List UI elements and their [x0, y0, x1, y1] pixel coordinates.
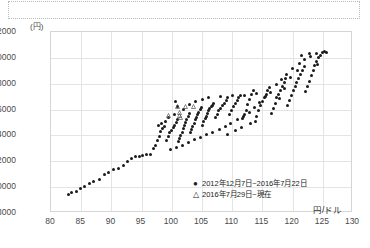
data-point-circle [285, 73, 288, 76]
data-point-circle [184, 121, 187, 124]
data-point-circle [226, 96, 229, 99]
gridline-vertical [323, 32, 324, 211]
data-point-circle [306, 85, 309, 88]
legend-entry: △ 2016年7月29日~現在 [193, 189, 307, 200]
data-point-circle [316, 63, 319, 66]
legend-marker-circle-icon: ● [193, 178, 202, 189]
data-point-circle [310, 74, 313, 77]
data-point-circle [83, 185, 86, 188]
data-point-circle [217, 109, 220, 112]
data-point-circle [264, 95, 267, 98]
data-point-circle [173, 124, 176, 127]
data-point-circle [206, 112, 209, 115]
data-point-circle [236, 99, 239, 102]
data-point-circle [187, 115, 190, 118]
data-point-circle [249, 122, 252, 125]
data-point-circle [325, 51, 328, 54]
data-point-circle [163, 125, 166, 128]
data-point-triangle [178, 106, 183, 111]
data-point-circle [165, 139, 168, 142]
data-point-circle [107, 171, 110, 174]
gridline-vertical [142, 32, 143, 211]
data-point-circle [228, 113, 231, 116]
data-point-circle [201, 124, 204, 127]
data-point-circle [286, 104, 289, 107]
data-point-circle [167, 135, 170, 138]
data-point-circle [112, 168, 115, 171]
data-point-circle [211, 131, 214, 134]
data-point-circle [201, 98, 204, 101]
data-point-circle [202, 120, 205, 123]
data-point-circle [156, 139, 159, 142]
data-point-circle [225, 99, 228, 102]
data-point-circle [193, 138, 196, 141]
data-point-circle [234, 102, 237, 105]
data-point-circle [197, 111, 200, 114]
data-point-circle [252, 89, 255, 92]
data-point-circle [181, 131, 184, 134]
gridline-vertical [172, 32, 173, 211]
chart-legend: ● 2012年12月7日~2016年7月22日 △ 2016年7月29日~現在 [193, 178, 307, 200]
data-point-circle [205, 115, 208, 118]
data-point-circle [98, 178, 101, 181]
data-point-circle [219, 95, 222, 98]
data-point-circle [284, 77, 287, 80]
data-point-circle [288, 99, 291, 102]
x-axis-tick-label: 130 [332, 217, 370, 226]
data-point-circle [187, 141, 190, 144]
data-point-circle [270, 112, 273, 115]
data-point-circle [283, 81, 286, 84]
data-point-circle [299, 73, 302, 76]
y-axis-unit-label: (円) [30, 20, 43, 31]
data-point-circle [292, 89, 295, 92]
data-point-circle [296, 69, 299, 72]
data-point-circle [194, 100, 197, 103]
data-point-circle [92, 180, 95, 183]
data-point-circle [226, 133, 229, 136]
data-point-circle [158, 135, 161, 138]
data-point-circle [272, 107, 275, 110]
data-point-circle [138, 155, 141, 158]
data-point-circle [250, 93, 253, 96]
data-point-circle [283, 87, 286, 90]
data-point-circle [191, 125, 194, 128]
data-point-circle [193, 122, 196, 125]
data-point-circle [248, 98, 251, 101]
data-point-circle [216, 113, 219, 116]
y-axis-tick-label: 20000 [0, 53, 16, 62]
data-point-circle [103, 173, 106, 176]
data-point-circle [181, 144, 184, 147]
data-point-circle [175, 146, 178, 149]
data-point-circle [126, 160, 129, 163]
data-point-circle [164, 120, 167, 123]
y-axis-tick-label: 8000 [0, 208, 16, 217]
data-point-circle [317, 56, 320, 59]
data-point-circle [312, 69, 315, 72]
data-point-circle [154, 144, 157, 147]
data-point-circle [257, 109, 260, 112]
data-point-circle [255, 92, 258, 95]
data-point-circle [88, 182, 91, 185]
data-point-circle [149, 153, 152, 156]
legend-marker-triangle-icon: △ [193, 189, 202, 200]
y-axis-tick-label: 22000 [0, 27, 16, 36]
data-point-circle [240, 126, 243, 129]
data-point-circle [248, 111, 251, 114]
data-point-circle [173, 113, 176, 116]
data-point-circle [188, 112, 191, 115]
data-point-triangle [191, 95, 196, 100]
x-axis-unit-label: 円/ドル [313, 203, 342, 215]
data-point-circle [196, 113, 199, 116]
data-point-circle [223, 102, 226, 105]
data-point-circle [315, 52, 318, 55]
data-point-circle [130, 157, 133, 160]
data-point-circle [185, 118, 188, 121]
data-point-circle [145, 153, 148, 156]
data-point-circle [294, 85, 297, 88]
data-point-circle [234, 129, 237, 132]
scatter-chart: (円) 円/ドル ● 2012年12月7日~2016年7月22日 △ 2016年… [0, 0, 370, 248]
data-point-circle [134, 155, 137, 158]
data-point-circle [301, 69, 304, 72]
data-point-circle [289, 76, 292, 79]
data-point-circle [75, 190, 78, 193]
